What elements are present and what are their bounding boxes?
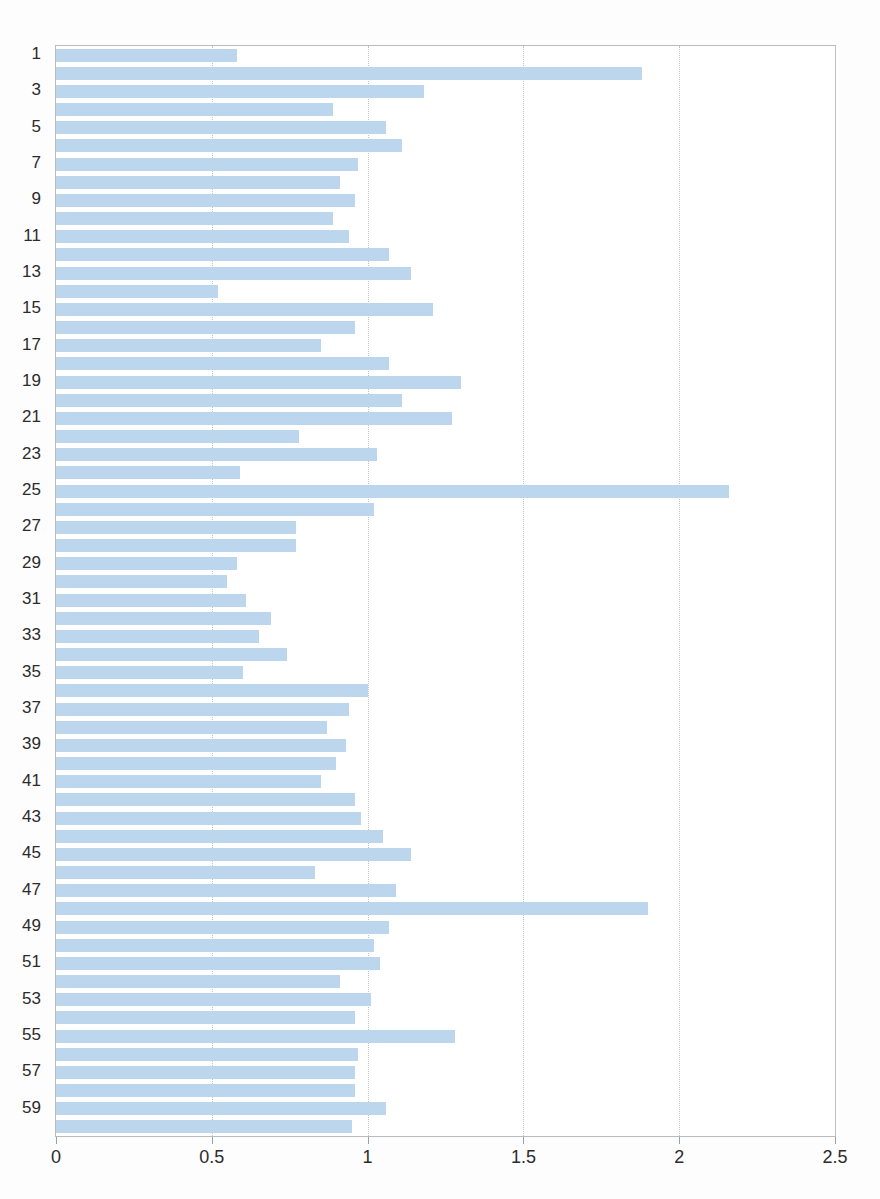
bar-chart-figure: 1357911131517192123252729313335373941434… bbox=[0, 0, 880, 1199]
bar bbox=[56, 139, 402, 152]
bar bbox=[56, 412, 452, 425]
bar bbox=[56, 103, 333, 116]
y-tick-label-11: 11 bbox=[23, 227, 41, 244]
bar-row bbox=[56, 555, 835, 573]
bar bbox=[56, 85, 424, 98]
bar bbox=[56, 793, 355, 806]
y-tick-label-27: 27 bbox=[22, 517, 41, 534]
bar-row bbox=[56, 518, 835, 536]
bar bbox=[56, 757, 336, 770]
y-tick-label-17: 17 bbox=[22, 336, 41, 353]
bar-row bbox=[56, 337, 835, 355]
bar-row bbox=[56, 428, 835, 446]
x-axis-tick-labels: 00.511.522.5 bbox=[0, 1147, 880, 1177]
bar-row bbox=[56, 409, 835, 427]
x-tick-label-0: 0 bbox=[51, 1147, 61, 1167]
x-tick-mark bbox=[212, 1137, 213, 1144]
y-tick-label-31: 31 bbox=[22, 590, 41, 607]
x-tick-mark bbox=[679, 1137, 680, 1144]
bar-row bbox=[56, 173, 835, 191]
bar bbox=[56, 248, 389, 261]
bar-row bbox=[56, 500, 835, 518]
bar bbox=[56, 575, 227, 588]
bar-row bbox=[56, 1082, 835, 1100]
bar bbox=[56, 557, 237, 570]
bar-row bbox=[56, 137, 835, 155]
y-tick-label-51: 51 bbox=[22, 953, 41, 970]
bar-row bbox=[56, 1045, 835, 1063]
bar bbox=[56, 1102, 386, 1115]
bar-row bbox=[56, 1009, 835, 1027]
bar-row bbox=[56, 246, 835, 264]
bar bbox=[56, 684, 368, 697]
bar bbox=[56, 630, 259, 643]
bar bbox=[56, 775, 321, 788]
y-tick-label-49: 49 bbox=[22, 917, 41, 934]
bar-row bbox=[56, 864, 835, 882]
bar-row bbox=[56, 700, 835, 718]
bar bbox=[56, 49, 237, 62]
y-tick-label-37: 37 bbox=[22, 699, 41, 716]
bar bbox=[56, 830, 383, 843]
y-tick-label-13: 13 bbox=[22, 263, 41, 280]
bar-row bbox=[56, 1063, 835, 1081]
y-tick-label-35: 35 bbox=[22, 663, 41, 680]
bar bbox=[56, 321, 355, 334]
y-tick-label-55: 55 bbox=[22, 1026, 41, 1043]
bar bbox=[56, 448, 377, 461]
bar bbox=[56, 812, 361, 825]
bar-row bbox=[56, 954, 835, 972]
bar-row bbox=[56, 537, 835, 555]
bar bbox=[56, 921, 389, 934]
x-tick-mark bbox=[835, 1137, 836, 1144]
bar-row bbox=[56, 319, 835, 337]
y-tick-label-7: 7 bbox=[32, 154, 41, 171]
bar-row bbox=[56, 882, 835, 900]
x-tick-mark bbox=[368, 1137, 369, 1144]
bar-row bbox=[56, 210, 835, 228]
bar-row bbox=[56, 755, 835, 773]
bar-row bbox=[56, 46, 835, 64]
bar bbox=[56, 194, 355, 207]
y-tick-label-43: 43 bbox=[22, 808, 41, 825]
bar-row bbox=[56, 391, 835, 409]
bar-row bbox=[56, 991, 835, 1009]
bar bbox=[56, 485, 729, 498]
bar-row bbox=[56, 464, 835, 482]
x-tick-label-2: 2 bbox=[674, 1147, 684, 1167]
bar-row bbox=[56, 1118, 835, 1136]
bar bbox=[56, 1120, 352, 1133]
y-tick-label-47: 47 bbox=[22, 881, 41, 898]
bar bbox=[56, 230, 349, 243]
y-tick-label-29: 29 bbox=[22, 554, 41, 571]
x-tick-label-1: 1 bbox=[363, 1147, 373, 1167]
bar bbox=[56, 394, 402, 407]
bar-row bbox=[56, 282, 835, 300]
bar bbox=[56, 267, 411, 280]
bar-row bbox=[56, 791, 835, 809]
bar bbox=[56, 521, 296, 534]
bar bbox=[56, 376, 461, 389]
bar bbox=[56, 939, 374, 952]
y-tick-label-39: 39 bbox=[22, 735, 41, 752]
bar bbox=[56, 285, 218, 298]
bar bbox=[56, 67, 642, 80]
bar bbox=[56, 648, 287, 661]
bar bbox=[56, 176, 340, 189]
bar-row bbox=[56, 446, 835, 464]
bar bbox=[56, 303, 433, 316]
bar bbox=[56, 902, 648, 915]
bar-row bbox=[56, 682, 835, 700]
bar-row bbox=[56, 900, 835, 918]
bar bbox=[56, 357, 389, 370]
bar-row bbox=[56, 573, 835, 591]
bar-row bbox=[56, 664, 835, 682]
bar-row bbox=[56, 646, 835, 664]
bar bbox=[56, 594, 246, 607]
bar-row bbox=[56, 1100, 835, 1118]
bar-row bbox=[56, 591, 835, 609]
bar bbox=[56, 848, 411, 861]
bar-row bbox=[56, 82, 835, 100]
bar bbox=[56, 430, 299, 443]
y-tick-label-9: 9 bbox=[32, 190, 41, 207]
